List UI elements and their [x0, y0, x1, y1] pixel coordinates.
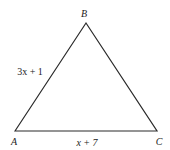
vertex-label-a: A	[10, 136, 18, 147]
vertex-label-b: B	[81, 8, 87, 19]
side-label-ab: 3x + 1	[17, 66, 43, 77]
triangle-diagram: B A C 3x + 1 x + 7	[0, 0, 170, 150]
side-label-ac: x + 7	[75, 137, 98, 148]
triangle-abc	[15, 23, 157, 131]
vertex-label-c: C	[156, 136, 163, 147]
